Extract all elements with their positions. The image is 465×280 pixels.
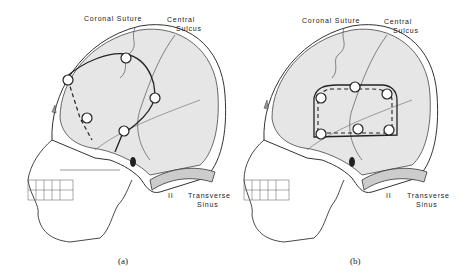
central-sulcus-label-1: Central bbox=[167, 15, 195, 24]
skull-diagram-b bbox=[232, 0, 464, 280]
transverse-sinus-label-2: Sinus bbox=[416, 200, 438, 209]
transverse-sinus-label-2: Sinus bbox=[197, 200, 219, 209]
coronal-suture-label: Coronal Suture bbox=[84, 14, 142, 23]
transverse-sinus-label-1: Transverse bbox=[188, 191, 231, 200]
panel-b: Coronal Suture Central Sulcus Transverse… bbox=[232, 0, 464, 280]
small-mark-label: II bbox=[168, 191, 174, 200]
small-mark-label: II bbox=[386, 191, 392, 200]
central-sulcus-label-2: Sulcus bbox=[393, 26, 419, 35]
panel-a: Coronal Suture Central Sulcus Transverse… bbox=[0, 0, 232, 280]
central-sulcus-label-1: Central bbox=[384, 17, 412, 26]
panel-b-caption: (b) bbox=[350, 256, 361, 266]
skull-diagram-a bbox=[0, 0, 232, 280]
transverse-sinus-label-1: Transverse bbox=[407, 191, 450, 200]
coronal-suture-label: Coronal Suture bbox=[302, 16, 360, 25]
panel-a-caption: (a) bbox=[118, 256, 128, 266]
central-sulcus-label-2: Sulcus bbox=[176, 24, 202, 33]
